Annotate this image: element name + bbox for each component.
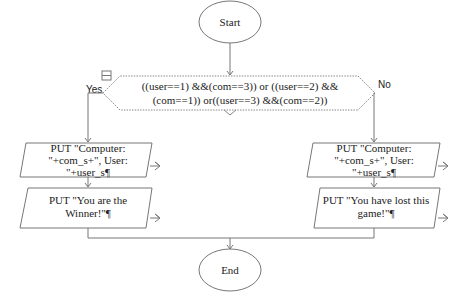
end-label: End	[221, 264, 239, 276]
connector	[88, 93, 103, 142]
output-text: game!"¶	[358, 207, 395, 219]
decision-condition-line-1: ((user==1) &&(com==3)) or ((user==2) &&	[142, 80, 339, 93]
start-label: Start	[220, 16, 241, 28]
output-text: "+user_s¶	[66, 166, 110, 178]
output-text: PUT "You are the	[49, 194, 127, 206]
output-text: PUT "You have lost this	[323, 194, 429, 206]
yes-output-2[interactable]: PUT "You are the Winner!"¶	[20, 188, 160, 228]
no-output-1[interactable]: PUT "Computer: "+com_s+", User: "+user_s…	[307, 142, 448, 178]
output-arrow-icon	[438, 214, 448, 222]
decision-condition-line-2: (com==1)) or((user==3) &&(com==2))	[153, 94, 328, 107]
output-arrow-icon	[438, 162, 448, 170]
yes-output-1[interactable]: PUT "Computer: "+com_s+", User: "+user_s…	[20, 142, 160, 178]
flowchart: Start ((user==1) &&(com==3)) or ((user==…	[0, 0, 472, 307]
decision-node[interactable]: ((user==1) &&(com==3)) or ((user==2) && …	[103, 76, 375, 115]
start-terminal[interactable]: Start	[199, 1, 261, 43]
output-arrow-icon	[150, 214, 160, 222]
output-text: "+com_s+", User:	[334, 154, 413, 166]
output-text: PUT "Computer:	[337, 142, 412, 154]
output-text: "+com_s+", User:	[48, 154, 127, 166]
no-label: No	[378, 79, 391, 90]
end-terminal[interactable]: End	[199, 249, 261, 291]
no-output-2[interactable]: PUT "You have lost this game!"¶	[314, 188, 448, 228]
collapse-icon[interactable]	[102, 71, 111, 80]
output-text: PUT "Computer:	[51, 142, 126, 154]
output-text: Winner!"¶	[65, 207, 111, 219]
output-arrow-icon	[150, 162, 160, 170]
connector	[374, 93, 375, 142]
output-text: "+user_s¶	[352, 166, 396, 178]
